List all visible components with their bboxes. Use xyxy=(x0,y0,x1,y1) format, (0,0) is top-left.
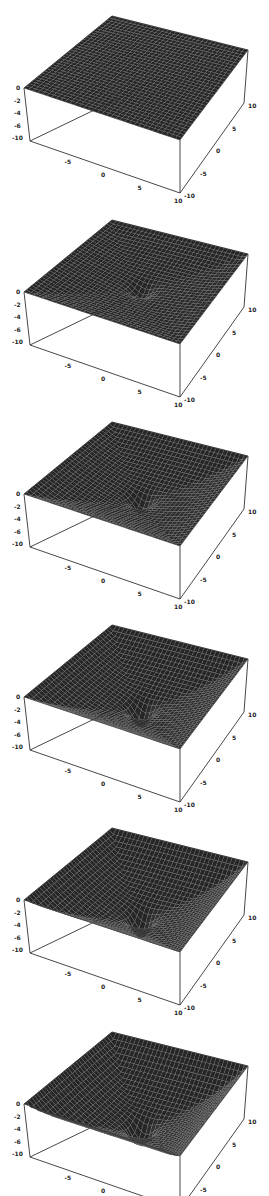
y-tick-label: 5 xyxy=(232,734,236,741)
x-tick-label: 5 xyxy=(138,590,142,597)
z-tick-label: 0 xyxy=(16,693,20,700)
y-tick-label: 10 xyxy=(248,102,256,109)
z-tick-label: -2 xyxy=(14,301,21,308)
x-tick-label: -5 xyxy=(65,362,72,369)
x-tick-label: 0 xyxy=(101,780,105,787)
y-tick-label: 10 xyxy=(248,711,256,718)
x-tick-label: 5 xyxy=(138,184,142,191)
y-tick-label: 0 xyxy=(216,351,220,358)
z-tick-label: 0 xyxy=(16,896,20,903)
x-tick-label: -5 xyxy=(65,564,72,571)
surface-mesh xyxy=(24,625,248,749)
y-tick-label: 10 xyxy=(248,1118,256,1125)
x-tick-label: 0 xyxy=(101,577,105,584)
y-tick-label: -10 xyxy=(184,1004,195,1011)
surface-plot-panel-5: 0-2-4-6-10-50510-10-50510 xyxy=(0,812,269,1016)
z-tick-label: -10 xyxy=(12,540,23,547)
y-tick-label: 10 xyxy=(248,306,256,313)
x-tick-label: -5 xyxy=(65,1174,72,1181)
z-tick-label: -2 xyxy=(14,1113,21,1120)
x-tick-label: -5 xyxy=(65,158,72,165)
y-tick-label: 0 xyxy=(216,147,220,154)
z-tick-label: -4 xyxy=(14,921,21,928)
x-tick-label: 5 xyxy=(138,996,142,1003)
x-tick-label: 5 xyxy=(138,388,142,395)
x-tick-label: -5 xyxy=(65,767,72,774)
z-tick-label: 0 xyxy=(16,490,20,497)
surface-mesh xyxy=(24,16,248,140)
surface-mesh xyxy=(24,1032,248,1156)
x-tick-label: 0 xyxy=(101,983,105,990)
z-tick-label: -6 xyxy=(14,1138,21,1145)
y-tick-label: -10 xyxy=(184,598,195,605)
y-tick-label: -5 xyxy=(200,170,207,177)
z-tick-label: -10 xyxy=(12,946,23,953)
z-tick-label: -10 xyxy=(12,338,23,345)
z-tick-label: 0 xyxy=(16,288,20,295)
surface-plot-panel-1: 0-2-4-6-10-50510-10-50510 xyxy=(0,0,269,204)
x-tick-label: 10 xyxy=(174,197,182,204)
y-tick-label: 5 xyxy=(232,1141,236,1148)
z-tick-label: -4 xyxy=(14,313,21,320)
surface-plot-panel-3: 0-2-4-6-10-50510-10-50510 xyxy=(0,406,269,610)
z-tick-label: -10 xyxy=(12,743,23,750)
z-tick-label: -6 xyxy=(14,934,21,941)
z-tick-label: -4 xyxy=(14,109,21,116)
x-tick-label: 5 xyxy=(138,793,142,800)
y-tick-label: -5 xyxy=(200,576,207,583)
surface-plot-panel-4: 0-2-4-6-10-50510-10-50510 xyxy=(0,609,269,813)
y-tick-label: -5 xyxy=(200,779,207,786)
y-tick-label: -5 xyxy=(200,982,207,989)
x-tick-label: 0 xyxy=(101,375,105,382)
z-tick-label: -2 xyxy=(14,706,21,713)
z-tick-label: -6 xyxy=(14,326,21,333)
y-tick-label: -10 xyxy=(184,396,195,403)
y-tick-label: 5 xyxy=(232,531,236,538)
y-tick-label: -10 xyxy=(184,801,195,808)
y-tick-label: 0 xyxy=(216,1163,220,1170)
y-tick-label: 0 xyxy=(216,959,220,966)
z-tick-label: -4 xyxy=(14,718,21,725)
z-tick-label: -10 xyxy=(12,1150,23,1157)
surface-mesh xyxy=(24,422,248,546)
z-tick-label: 0 xyxy=(16,84,20,91)
y-tick-label: 5 xyxy=(232,329,236,336)
y-tick-label: -10 xyxy=(184,192,195,199)
x-tick-label: 0 xyxy=(101,1187,105,1194)
z-tick-label: -4 xyxy=(14,1125,21,1132)
z-tick-label: -6 xyxy=(14,528,21,535)
y-tick-label: 5 xyxy=(232,125,236,132)
z-tick-label: -2 xyxy=(14,909,21,916)
z-tick-label: -6 xyxy=(14,731,21,738)
z-tick-label: 0 xyxy=(16,1100,20,1107)
y-tick-label: -5 xyxy=(200,374,207,381)
y-tick-label: 10 xyxy=(248,914,256,921)
y-tick-label: 0 xyxy=(216,756,220,763)
x-tick-label: -5 xyxy=(65,970,72,977)
surface-plot-panel-6: 0-2-4-6-10-50510-10-50510 xyxy=(0,1016,269,1196)
y-tick-label: 0 xyxy=(216,553,220,560)
z-tick-label: -4 xyxy=(14,515,21,522)
surface-plot-panel-2: 0-2-4-6-10-50510-10-50510 xyxy=(0,204,269,408)
y-tick-label: -5 xyxy=(200,1186,207,1193)
z-tick-label: -6 xyxy=(14,122,21,129)
z-tick-label: -2 xyxy=(14,97,21,104)
y-tick-label: 5 xyxy=(232,937,236,944)
x-tick-label: 10 xyxy=(174,1009,182,1016)
z-tick-label: -2 xyxy=(14,503,21,510)
x-tick-label: 0 xyxy=(101,171,105,178)
z-tick-label: -10 xyxy=(12,134,23,141)
y-tick-label: 10 xyxy=(248,508,256,515)
surface-mesh xyxy=(24,220,248,344)
surface-mesh xyxy=(24,828,248,952)
